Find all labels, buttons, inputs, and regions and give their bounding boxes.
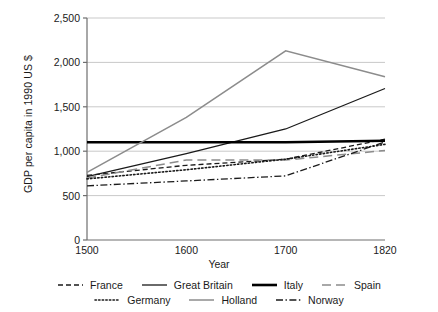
legend-item[interactable]: Holland [188,294,257,306]
x-tick-label: 1700 [256,244,316,256]
legend-item[interactable]: Great Britain [141,279,233,291]
legend-line-swatch-icon [188,295,215,305]
legend-item[interactable]: Italy [251,279,303,291]
legend-label: France [90,279,123,291]
legend-label: Germany [127,294,170,306]
legend-label: Holland [221,294,257,306]
legend-row: FranceGreat BritainItalySpain [0,277,438,292]
legend-item[interactable]: Norway [275,294,344,306]
legend-line-swatch-icon [94,295,121,305]
legend-item[interactable]: Germany [94,294,170,306]
series-line [87,142,385,186]
legend-line-swatch-icon [275,295,302,305]
chart-legend: FranceGreat BritainItalySpainGermanyHoll… [0,277,438,307]
x-tick-label: 1500 [57,244,117,256]
series-line [87,141,385,143]
x-axis-title: Year [0,258,438,270]
legend-item[interactable]: Spain [321,279,381,291]
series-line [87,144,385,179]
legend-label: Great Britain [174,279,233,291]
legend-row: GermanyHollandNorway [0,292,438,307]
x-tick-label: 1820 [355,244,415,256]
legend-line-swatch-icon [57,280,84,290]
legend-label: Norway [308,294,344,306]
legend-line-swatch-icon [251,280,278,290]
legend-line-swatch-icon [321,280,348,290]
legend-label: Italy [284,279,303,291]
legend-label: Spain [354,279,381,291]
legend-item[interactable]: France [57,279,123,291]
x-tick-label: 1600 [156,244,216,256]
legend-line-swatch-icon [141,280,168,290]
line-chart: GDP per capita in 1990 US $ 05001,0001,5… [0,0,438,312]
series-line [87,89,385,177]
